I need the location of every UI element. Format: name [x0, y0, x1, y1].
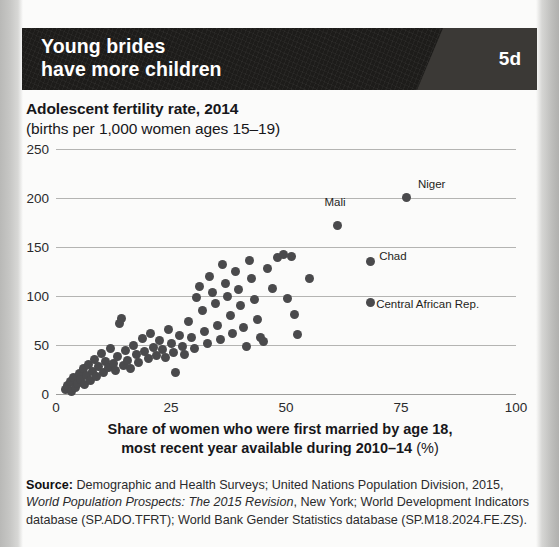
data-point [187, 333, 196, 342]
data-point [205, 272, 214, 281]
data-point [236, 301, 245, 310]
data-point [198, 306, 207, 315]
x-axis-caption-line2: most recent year available during 2010–1… [22, 439, 538, 458]
data-point [250, 295, 259, 304]
data-point [234, 285, 243, 294]
data-point [117, 314, 126, 323]
banner-title-line2: have more children [41, 58, 421, 81]
y-tick-label-0: 0 [41, 387, 49, 402]
data-point-label-niger: Niger [418, 178, 445, 190]
chart-subtitle: (births per 1,000 women ages 15–19) [26, 120, 280, 138]
x-axis-caption-line2-text: most recent year available during 2010–1… [121, 440, 412, 456]
data-point [146, 329, 155, 338]
page-background: Young brides have more children 5d Adole… [0, 0, 559, 547]
data-point [242, 342, 251, 351]
data-point-label-central-african-rep: Central African Rep. [376, 298, 479, 310]
banner-title: Young brides have more children [41, 35, 421, 81]
data-point [113, 352, 122, 361]
data-point [208, 288, 217, 297]
data-point [290, 310, 299, 319]
data-point [126, 364, 135, 373]
data-point [287, 252, 296, 261]
data-point [253, 315, 262, 324]
data-point [228, 329, 237, 338]
data-point [213, 321, 222, 330]
data-point-label-mali: Mali [325, 196, 346, 208]
figure-number-label: 5d [499, 48, 521, 70]
data-point [134, 358, 143, 367]
data-point [239, 323, 248, 332]
data-point [226, 311, 235, 320]
data-point [203, 339, 212, 348]
data-point [211, 299, 220, 308]
data-point [164, 325, 173, 334]
gridline-y-150 [56, 247, 516, 248]
data-point [283, 294, 292, 303]
data-point [169, 348, 178, 357]
data-point [305, 274, 314, 283]
data-point [200, 327, 209, 336]
data-point [268, 284, 277, 293]
data-point [155, 336, 164, 345]
x-axis-units: (%) [416, 440, 439, 456]
x-tick-label-100: 100 [505, 400, 528, 415]
banner-title-line1: Young brides [41, 35, 165, 57]
data-point [221, 279, 230, 288]
data-point [192, 293, 201, 302]
gridline-y-200 [56, 198, 516, 199]
data-point-label-chad: Chad [379, 250, 407, 262]
data-point [180, 350, 189, 359]
data-point [293, 330, 302, 339]
header-banner: Young brides have more children 5d [22, 28, 537, 90]
data-point [138, 334, 147, 343]
chart-title: Adolescent fertility rate, 2014 [26, 100, 238, 118]
data-point-chad [366, 257, 375, 266]
scatter-plot-area: 0501001502002500255075100NigerMaliChadCe… [56, 149, 516, 394]
data-point [223, 292, 232, 301]
source-note: Source: Demographic and Health Surveys; … [26, 477, 534, 529]
data-point [218, 260, 227, 269]
source-italic-title: World Population Prospects: The 2015 Rev… [26, 495, 293, 509]
gridline-y-0 [56, 394, 516, 395]
y-tick-label-250: 250 [26, 142, 49, 157]
data-point [195, 282, 204, 291]
gridline-y-250 [56, 149, 516, 150]
data-point [263, 264, 272, 273]
source-label: Source: [26, 478, 73, 492]
data-point [259, 337, 268, 346]
x-tick-label-0: 0 [52, 400, 60, 415]
data-point [184, 317, 193, 326]
data-point [247, 274, 256, 283]
chart-container: Adolescent fertility rate, 2014 (births … [22, 98, 538, 473]
x-axis-caption-line1: Share of women who were first married by… [22, 420, 538, 439]
data-point [129, 341, 138, 350]
data-point [190, 344, 199, 353]
x-tick-label-50: 50 [278, 400, 293, 415]
data-point-central-african-rep [366, 298, 375, 307]
source-text-1: Demographic and Health Surveys; United N… [73, 478, 504, 492]
data-point-mali [333, 221, 342, 230]
data-point [175, 331, 184, 340]
data-point [231, 267, 240, 276]
data-point [171, 368, 180, 377]
x-tick-label-75: 75 [393, 400, 408, 415]
y-tick-label-100: 100 [26, 289, 49, 304]
data-point [216, 335, 225, 344]
x-axis-caption: Share of women who were first married by… [22, 420, 538, 458]
y-tick-label-200: 200 [26, 191, 49, 206]
y-tick-label-150: 150 [26, 240, 49, 255]
data-point [245, 256, 254, 265]
data-point [167, 339, 176, 348]
data-point-niger [402, 193, 411, 202]
y-tick-label-50: 50 [34, 338, 49, 353]
x-tick-label-25: 25 [163, 400, 178, 415]
